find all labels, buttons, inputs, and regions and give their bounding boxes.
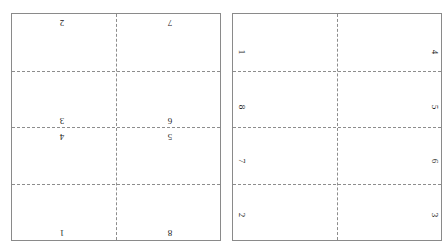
left-sheet-fold-horizontal-1 xyxy=(12,71,220,72)
right-sheet-cell-label: 7 xyxy=(237,159,246,164)
right-sheet-fold-horizontal-3 xyxy=(233,184,441,185)
left-sheet-cell-label: 1 xyxy=(60,228,65,237)
right-sheet-cell-label: 8 xyxy=(237,104,246,109)
right-sheet-fold-horizontal-1 xyxy=(233,71,441,72)
left-sheet: 2 7 3 6 4 5 1 8 xyxy=(11,13,221,241)
left-sheet-fold-vertical-1 xyxy=(116,14,117,240)
left-sheet-cell-label: 2 xyxy=(60,17,65,26)
left-sheet-cell-label: 6 xyxy=(168,116,173,125)
right-sheet-cell-label: 3 xyxy=(429,213,438,218)
diagram-canvas: 2 7 3 6 4 5 1 8 1 4 8 5 7 6 2 3 xyxy=(0,0,442,249)
right-sheet-cell-label: 4 xyxy=(429,50,438,55)
left-sheet-cell-label: 5 xyxy=(168,132,173,141)
left-sheet-cell-label: 8 xyxy=(168,228,173,237)
right-sheet-fold-vertical-1 xyxy=(337,14,338,240)
right-sheet: 1 4 8 5 7 6 2 3 xyxy=(232,13,442,241)
left-sheet-fold-horizontal-2 xyxy=(12,127,220,128)
left-sheet-cell-label: 3 xyxy=(60,116,65,125)
left-sheet-fold-horizontal-3 xyxy=(12,184,220,185)
left-sheet-cell-label: 7 xyxy=(168,17,173,26)
right-sheet-cell-label: 5 xyxy=(429,104,438,109)
left-sheet-cell-label: 4 xyxy=(60,132,65,141)
right-sheet-fold-horizontal-2 xyxy=(233,127,441,128)
right-sheet-cell-label: 2 xyxy=(237,213,246,218)
right-sheet-cell-label: 1 xyxy=(237,50,246,55)
right-sheet-cell-label: 6 xyxy=(429,159,438,164)
